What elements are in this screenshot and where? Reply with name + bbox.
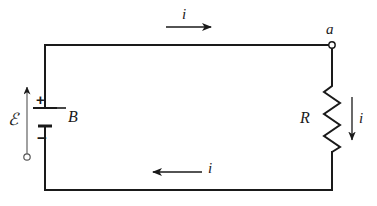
current-label-right: i	[359, 111, 363, 126]
current-label-top: i	[182, 7, 186, 22]
battery-plus-sign: +	[36, 92, 45, 107]
node-a-terminal	[329, 42, 335, 48]
circuit-svg	[0, 0, 377, 206]
resistor-zigzag	[324, 82, 340, 152]
emf-terminal-circle	[24, 154, 30, 160]
node-a-label: a	[326, 22, 334, 37]
resistor-label: R	[300, 110, 310, 126]
emf-label: ℰ	[8, 111, 18, 128]
current-label-bottom: i	[208, 161, 212, 176]
circuit-diagram-figure: i i i a R B ℰ + −	[0, 0, 377, 206]
battery-minus-sign: −	[37, 130, 47, 147]
battery-label: B	[68, 109, 78, 125]
